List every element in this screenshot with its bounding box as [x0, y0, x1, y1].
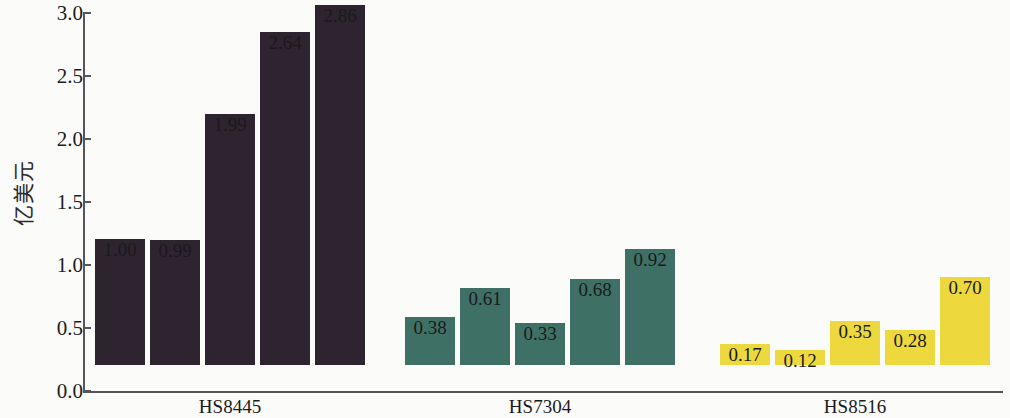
- x-axis-group-label: HS8516: [720, 396, 990, 418]
- bar: [205, 114, 255, 365]
- bar-value-label: 0.92: [617, 249, 683, 271]
- bar-value-label: 1.99: [197, 114, 263, 136]
- bar-value-label: 0.38: [397, 317, 463, 339]
- bar-value-label: 0.61: [452, 288, 518, 310]
- bar-value-label: 0.99: [142, 240, 208, 262]
- bar-value-label: 0.68: [562, 279, 628, 301]
- bar-chart: 亿美元 0.00.51.01.52.02.53.0 HS8445HS7304HS…: [0, 0, 1010, 418]
- bar-value-label: 2.86: [307, 5, 373, 27]
- bar-value-label: 0.70: [932, 277, 998, 299]
- bar-value-label: 2.64: [252, 32, 318, 54]
- x-axis-group-label: HS8445: [95, 396, 365, 418]
- bar-value-label: 0.33: [507, 323, 573, 345]
- bar-value-label: 0.28: [877, 330, 943, 352]
- bar-value-label: 0.12: [767, 350, 833, 372]
- bar: [260, 32, 310, 365]
- x-axis-group-label: HS7304: [405, 396, 675, 418]
- bar: [315, 5, 365, 365]
